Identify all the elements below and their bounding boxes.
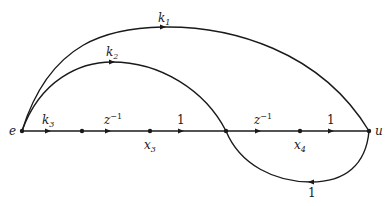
gain-k3: k3 — [42, 113, 54, 129]
arrow-icon — [328, 129, 334, 134]
arrow-icon — [178, 129, 184, 134]
label-e: e — [9, 124, 16, 138]
node-u — [367, 129, 371, 133]
label-x3: x3 — [144, 138, 156, 154]
gain-k2: k2 — [106, 45, 118, 61]
arrow-icon — [105, 129, 111, 134]
arrow-icon — [255, 129, 261, 134]
node-1 — [80, 129, 84, 133]
arrow-icon — [45, 129, 51, 134]
gain-1b: 1 — [327, 113, 335, 127]
gain-1a: 1 — [177, 113, 185, 127]
gain-z2: z−1 — [253, 112, 272, 127]
gain-loop-1: 1 — [308, 186, 316, 200]
gain-z1: z−1 — [103, 112, 122, 127]
arrow-icon — [308, 180, 314, 185]
node-2 — [224, 129, 228, 133]
node-x3 — [148, 129, 152, 133]
node-e — [20, 129, 24, 133]
node-x4 — [298, 129, 302, 133]
label-u: u — [375, 124, 383, 138]
gain-k1: k1 — [158, 11, 170, 27]
label-x4: x4 — [294, 138, 306, 154]
signal-flow-graph: e u x3 x4 k1 k2 k3 z−1 1 z−1 1 1 — [0, 0, 392, 206]
edge-k1-arc — [22, 27, 369, 131]
